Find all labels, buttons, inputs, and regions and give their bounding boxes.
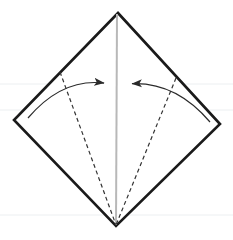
origami-fold-figure: Diamond-shaped paper with a vertical cen…	[0, 0, 233, 240]
center-vertical-crease	[116, 14, 117, 225]
figure-canvas	[0, 0, 233, 240]
